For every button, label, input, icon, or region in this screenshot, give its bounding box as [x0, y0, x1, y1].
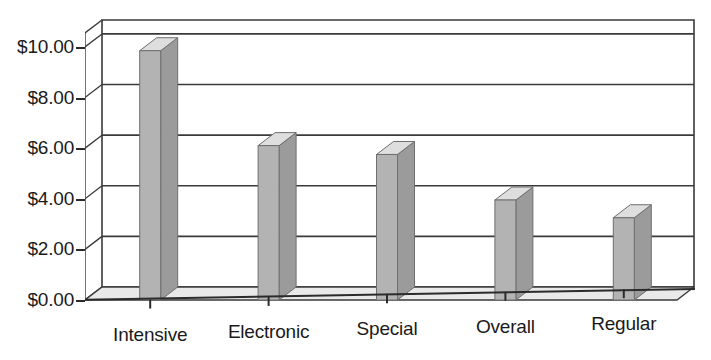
y-axis-label-group: $10.00$8.00$6.00$4.00$2.00$0.00 [0, 0, 74, 360]
y-axis-tick-label: $2.00 [27, 238, 74, 260]
plot-area [85, 0, 695, 360]
x-axis-tick-label-special: Special [357, 318, 418, 340]
y-axis-tick-mark [76, 249, 85, 251]
y-axis-tick-mark [76, 300, 85, 302]
bar-chart: $10.00$8.00$6.00$4.00$2.00$0.00 Intensiv… [0, 0, 711, 360]
bar-regular [613, 205, 651, 300]
y-axis-tick-label: $6.00 [27, 137, 74, 159]
y-axis-tick-label: $10.00 [17, 36, 74, 58]
bar-overall [495, 187, 533, 300]
x-axis-tick-label-overall: Overall [476, 316, 535, 338]
x-axis-tick-label-intensive: Intensive [113, 324, 187, 346]
y-axis-tick-label: $4.00 [27, 188, 74, 210]
bar-intensive [140, 38, 178, 300]
chart-canvas [85, 0, 695, 360]
x-axis-tick-label-regular: Regular [591, 313, 656, 335]
y-axis-tick-mark [76, 148, 85, 150]
y-axis-tick-label: $0.00 [27, 289, 74, 311]
bar-special [377, 141, 415, 300]
y-axis-tick-mark [76, 98, 85, 100]
x-axis-label-group: IntensiveElectronicSpecialOverallRegular [0, 313, 711, 353]
y-axis-tick-mark [76, 199, 85, 201]
bar-electronic [258, 133, 296, 300]
y-axis-tick-mark [76, 47, 85, 49]
y-axis-tick-label: $8.00 [27, 87, 74, 109]
x-axis-tick-label-electronic: Electronic [228, 321, 309, 343]
